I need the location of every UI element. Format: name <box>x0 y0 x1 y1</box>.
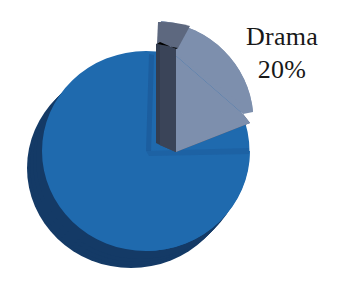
slice-label-drama: Drama 20% <box>232 22 332 85</box>
pie-chart: Drama 20% <box>0 0 339 286</box>
slice-label-value: 20% <box>232 55 332 86</box>
slice-label-name: Drama <box>232 22 332 53</box>
